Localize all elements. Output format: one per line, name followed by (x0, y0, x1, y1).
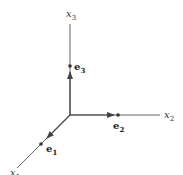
label-e2: e2 (113, 120, 124, 134)
vector-e1-arrow (47, 115, 70, 138)
label-e3: e3 (74, 61, 85, 75)
point-e1 (39, 142, 43, 146)
point-e2 (116, 113, 120, 117)
label-x3: x3 (66, 8, 76, 22)
label-x1: x1 (10, 167, 20, 175)
label-e1: e1 (46, 143, 57, 157)
label-x2: x2 (164, 109, 174, 123)
coordinate-diagram: x3 x2 x1 e3 e2 e1 (0, 0, 183, 175)
point-e3 (68, 64, 72, 68)
